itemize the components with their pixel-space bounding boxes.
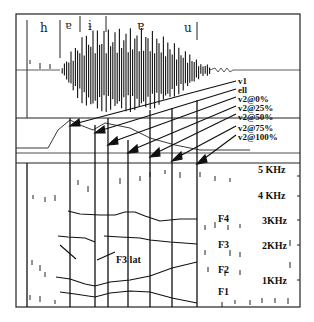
formant-label-f3: F3 [218, 240, 229, 250]
f4-track [68, 211, 197, 221]
freq-label-2khz: 2KHz [262, 241, 287, 251]
annotation-v2-50: v2@50% [238, 112, 273, 122]
freq-label-1khz: 1KHz [262, 276, 287, 286]
phoneme-label-v2: ɐ [137, 20, 144, 32]
acoustic-figure: h ɐ ɨ ɐ u v1 ell v2@0% v2@25% v2@50% v2@… [0, 0, 314, 322]
formant-label-f4: F4 [218, 214, 229, 224]
phoneme-label-v1: ɐ [65, 20, 72, 32]
f3-track [58, 236, 95, 242]
waveform [60, 28, 210, 112]
phoneme-boundaries [27, 16, 197, 118]
outer-frame [16, 14, 300, 307]
phoneme-label-u: u [184, 22, 192, 34]
f2-track [56, 262, 197, 286]
freq-label-5khz: 5 KHz [258, 165, 286, 175]
figure-graphics [0, 0, 314, 322]
f3-lateral-track-right [97, 252, 115, 260]
freq-label-4khz: 4 KHz [258, 191, 286, 201]
freq-label-3khz: 3KHz [262, 216, 287, 226]
f3-lateral-track [60, 245, 76, 259]
phoneme-label-ell: ɨ [88, 20, 92, 32]
formant-label-f2: F2 [218, 265, 229, 275]
formant-label-f3-lat: F3 lat [116, 255, 141, 265]
waveform-tail [210, 68, 300, 72]
formant-label-f1: F1 [218, 287, 229, 297]
annotation-v2-100: v2@100% [238, 132, 278, 142]
phoneme-label-h: h [40, 22, 48, 34]
